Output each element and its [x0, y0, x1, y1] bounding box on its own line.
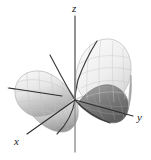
axis-label-y: y	[137, 112, 142, 123]
axis-label-z: z	[72, 3, 76, 14]
surface-group	[15, 39, 131, 132]
surface-plot-canvas	[0, 0, 151, 160]
axis-label-x: x	[14, 136, 19, 147]
surface-plot-figure: z y x	[0, 0, 151, 160]
